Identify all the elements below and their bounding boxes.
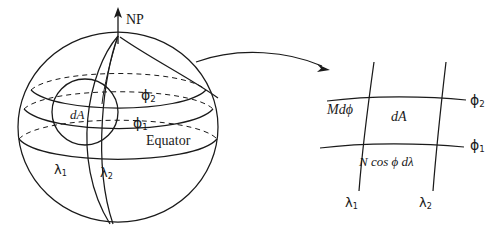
sphere-meridian-lambda1-subscript: 1 <box>62 169 67 178</box>
detail-parallel-phi2-label: ϕ2 <box>470 93 485 109</box>
detail-parallel-phi2-subscript: 2 <box>479 99 485 109</box>
sphere-parallel-phi2-subscript: 2 <box>150 94 156 104</box>
detail-meridian-lambda2 <box>433 62 446 191</box>
sphere-parallel-phi1-symbol: ϕ <box>133 115 142 131</box>
detail-parallel-phi2-symbol: ϕ <box>470 92 479 108</box>
detail-parallel-arc-label: N cos ϕ dλ <box>359 155 414 168</box>
sphere-meridian-lambda2-symbol: λ <box>100 165 108 180</box>
detail-meridian-lambda1-symbol: λ <box>345 195 353 210</box>
detail-meridian-lambda2-label: λ2 <box>419 196 432 211</box>
sphere-parallel-phi2-symbol: ϕ <box>141 87 150 103</box>
parallel-phi2-back <box>31 74 206 91</box>
sphere-parallel-phi2-label: ϕ2 <box>141 88 156 104</box>
detail-meridian-lambda1 <box>359 62 374 191</box>
pointer-arrow <box>196 52 330 72</box>
detail-grid-group <box>320 62 466 191</box>
sphere-meridian-lambda2-label: λ2 <box>100 166 113 181</box>
detail-meridian-lambda2-subscript: 2 <box>427 202 432 211</box>
sphere-meridian-lambda1-symbol: λ <box>54 162 62 177</box>
sphere-parallel-phi1-subscript: 1 <box>142 122 148 132</box>
detail-area-element-label: dA <box>391 110 407 124</box>
equator-label: Equator <box>146 134 190 148</box>
sphere-area-element-label: dA <box>70 108 84 121</box>
sphere-group <box>18 7 218 224</box>
sphere-meridian-lambda1-label: λ1 <box>54 163 67 178</box>
geodetic-area-element-figure: NP ϕ2 ϕ1 dA Equator λ1 λ2 Mdϕ dA N cos ϕ… <box>0 0 503 232</box>
detail-meridian-lambda1-subscript: 1 <box>353 202 358 211</box>
detail-meridian-lambda1-label: λ1 <box>345 196 358 211</box>
parallel-phi2-front <box>31 90 206 108</box>
sphere-meridian-lambda2-subscript: 2 <box>108 172 113 181</box>
detail-parallel-phi1-label: ϕ1 <box>470 138 485 154</box>
magnifier-circle <box>52 79 118 145</box>
detail-parallel-phi2 <box>327 97 466 101</box>
north-pole-label: NP <box>126 13 144 27</box>
detail-parallel-phi1 <box>320 144 464 148</box>
detail-parallel-phi1-subscript: 1 <box>479 144 485 154</box>
detail-meridional-arc-label: Mdϕ <box>327 103 353 117</box>
oblique-great-circle <box>120 37 218 98</box>
sphere-parallel-phi1-label: ϕ1 <box>133 116 148 132</box>
detail-parallel-phi1-symbol: ϕ <box>470 137 479 153</box>
detail-meridian-lambda2-symbol: λ <box>419 195 427 210</box>
